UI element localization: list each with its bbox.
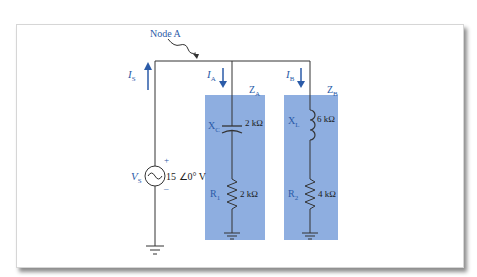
circuit-diagram: Node A IS IA IB ZA ZB + – VS 15 ∠0° V XC… [0,0,477,277]
current-arrow-is-icon [144,62,152,90]
ac-source-icon [145,166,165,186]
capacitor-value-label: 2 kΩ [245,118,263,128]
current-arrow-ia-icon [219,68,227,88]
source-name-label: VS [131,170,142,185]
resistor-r2-value-label: 4 kΩ [318,189,336,199]
current-ia-label: IA [206,68,216,83]
impedance-box-a [205,95,265,240]
node-a-pointer-icon [168,39,199,59]
source-minus-sign: – [163,183,169,193]
current-ib-label: IB [285,68,295,83]
source-plus-sign: + [164,155,169,165]
resistor-r1-value-label: 2 kΩ [240,189,258,199]
node-a-label: Node A [150,28,182,39]
ground-icon-source [146,246,164,254]
current-is-label: IS [127,68,136,83]
inductor-value-label: 6 kΩ [317,114,335,124]
current-arrow-ib-icon [297,68,305,88]
source-value-label: 15 ∠0° V [166,171,207,182]
